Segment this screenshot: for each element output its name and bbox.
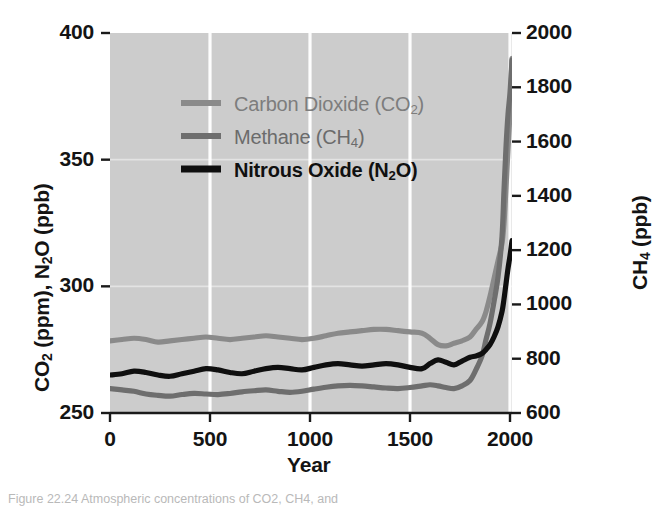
legend-item-carbon-dioxide-label: Carbon Dioxide (CO [234,93,410,115]
legend-item-nitrous-oxide-label: Nitrous Oxide (N [234,159,389,181]
y-tick-right-1000: 1000 [526,291,572,315]
x-tick-2000: 2000 [470,427,550,451]
x-tick-500: 500 [170,427,250,451]
y-tick-right-1200: 1200 [526,237,572,261]
y-axis-right-title-ch4-sub: 4 [637,253,653,261]
y-tick-right-2000: 2000 [526,20,572,44]
figure-container: 250300350400 600800100012001400160018002… [0,0,656,508]
figure-caption: Figure 22.24 Atmospheric concentrations … [8,492,648,508]
y-tick-left-250: 250 [0,400,94,424]
legend-item-carbon-dioxide: Carbon Dioxide (CO2) [234,93,424,117]
x-tick-1000: 1000 [270,427,350,451]
x-axis-title: Year [287,453,331,477]
y-axis-left-title-co2: CO [30,361,53,392]
legend-item-nitrous-oxide-subscript: 2 [389,168,396,183]
legend-item-nitrous-oxide-label-tail: O) [396,159,418,181]
x-tick-1500: 1500 [370,427,450,451]
y-tick-left-350: 350 [0,147,94,171]
y-tick-right-1400: 1400 [526,183,572,207]
y-tick-right-600: 600 [526,400,560,424]
y-axis-left-title-n2o-sub: 2 [39,257,55,265]
legend-item-methane-label-tail: ) [358,126,364,148]
x-tick-0: 0 [70,427,150,451]
legend-item-methane: Methane (CH4) [234,126,364,150]
y-axis-left-title: CO2 (ppm), N2O (ppb) [30,183,55,392]
legend-item-carbon-dioxide-subscript: 2 [410,102,417,117]
legend-item-nitrous-oxide: Nitrous Oxide (N2O) [234,159,418,183]
legend-item-carbon-dioxide-label-tail: ) [418,93,424,115]
y-axis-left-title-co2-sub: 2 [39,353,55,361]
y-axis-left-title-mid: (ppm), N [30,264,53,353]
y-axis-left-title-tail: O (ppb) [30,183,53,256]
legend-item-methane-subscript: 4 [351,135,358,150]
y-tick-right-800: 800 [526,346,560,370]
y-tick-left-400: 400 [0,20,94,44]
y-axis-right-title-ch4: CH [628,260,651,290]
legend-item-methane-label: Methane (CH [234,126,351,148]
y-tick-right-1600: 1600 [526,129,572,153]
y-axis-right-title: CH4 (ppb) [628,195,653,290]
y-tick-right-1800: 1800 [526,74,572,98]
y-axis-right-title-tail: (ppb) [628,195,651,252]
